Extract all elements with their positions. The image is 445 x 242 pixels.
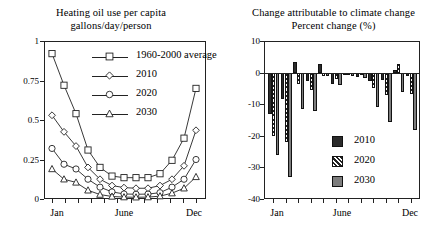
left-xtick-label-june: June	[115, 207, 133, 218]
legend-item-1960-2000-average: 1960-2000 average	[92, 48, 204, 67]
circle-marker-icon	[49, 145, 55, 151]
bar-2020-Mar	[297, 73, 300, 84]
circle-marker-icon	[193, 156, 199, 162]
legend-item-2020: 2020	[92, 86, 204, 105]
right-xtick-label-dec: Dec	[402, 207, 418, 218]
circle-marker-icon	[73, 166, 79, 172]
circle-marker-icon	[181, 176, 187, 182]
right-xtick-label-june: June	[333, 207, 351, 218]
left-xtick-mark	[78, 199, 79, 203]
square-marker-icon	[61, 82, 67, 88]
square-marker-icon	[49, 51, 55, 57]
legend-label: 2020	[354, 154, 375, 165]
bar-2010-Jan	[268, 73, 271, 114]
left-xtick-mark	[65, 199, 66, 203]
bar-2030-Jan	[276, 73, 279, 155]
square-marker-icon	[109, 173, 115, 179]
triangle-marker-icon	[105, 109, 114, 118]
left-chart-panel: Heating oil use per capita gallons/day/p…	[0, 0, 222, 242]
right-xtick-mark	[298, 199, 299, 203]
left-xtick-label-jan: Jan	[50, 207, 63, 218]
right-ytick-label-neg20: -20	[234, 131, 260, 141]
square-marker-icon	[105, 52, 114, 61]
bar-2030-Oct	[388, 73, 391, 122]
bar-2020-Sep	[372, 73, 375, 89]
bar-2010-June	[331, 73, 334, 84]
legend-label: 1960-2000 average	[136, 49, 217, 60]
legend-label: 2020	[136, 87, 157, 98]
left-xtick-mark	[52, 199, 53, 203]
bar-2020-Feb	[285, 73, 288, 143]
legend-item-2010: 2010	[92, 67, 204, 86]
right-ytick-label-neg10: -10	[234, 99, 260, 109]
bar-2010-Oct	[381, 73, 384, 80]
right-xtick-mark	[323, 199, 324, 203]
bar-2010-Feb	[281, 73, 284, 100]
triangle-marker-icon	[49, 165, 56, 171]
right-ytick-label-10: 10	[234, 36, 260, 46]
square-marker-icon	[157, 171, 163, 177]
left-xtick-mark	[144, 199, 145, 203]
left-xtick-mark	[104, 199, 105, 203]
diamond-marker-icon	[109, 182, 116, 189]
bar-2030-Apr	[313, 73, 316, 111]
bar-2010-Apr	[306, 73, 309, 81]
right-xtick-mark	[386, 199, 387, 203]
right-xtick-mark	[286, 199, 287, 203]
legend-label: 2010	[354, 134, 375, 145]
right-zero-line	[265, 73, 419, 74]
square-marker-icon	[133, 175, 139, 181]
right-ytick-label-0: 0	[234, 68, 260, 78]
bar-2030-Feb	[288, 73, 291, 177]
diamond-marker-icon	[49, 112, 56, 119]
left-xtick-mark	[131, 199, 132, 203]
left-xtick-mark	[91, 199, 92, 203]
bar-2030-Dec	[413, 73, 416, 131]
circle-marker-icon	[97, 184, 103, 190]
right-ytick-label-neg40: -40	[234, 194, 260, 204]
right-xtick-mark	[336, 199, 337, 203]
bar-2010-Mar	[293, 62, 296, 72]
bar-2030-Sep	[376, 73, 379, 107]
bar-2020-Apr	[310, 73, 313, 90]
bar-2010-May	[318, 64, 321, 72]
bar-2020-Oct	[385, 73, 388, 95]
right-xtick-mark	[411, 199, 412, 203]
triangle-marker-icon	[61, 176, 68, 182]
left-xtick-mark	[196, 199, 197, 203]
right-xtick-label-jan: Jan	[270, 207, 283, 218]
circle-marker-icon	[105, 90, 114, 99]
square-marker-icon	[145, 175, 151, 181]
diagonal-hatch-swatch-icon	[332, 156, 343, 167]
square-marker-icon	[97, 164, 103, 170]
legend-label: 2030	[136, 106, 157, 117]
legend-label: 2010	[136, 68, 157, 79]
legend-label: 2030	[354, 174, 375, 185]
right-chart-title-line1: Change attributable to climate change	[222, 6, 445, 19]
diamond-marker-icon	[133, 185, 140, 192]
circle-marker-icon	[61, 161, 67, 167]
right-xtick-mark	[311, 199, 312, 203]
triangle-marker-icon	[193, 173, 200, 179]
diamond-marker-icon	[157, 182, 164, 189]
bar-2030-Nov	[401, 73, 404, 92]
square-marker-icon	[181, 135, 187, 141]
right-xtick-mark	[361, 199, 362, 203]
bar-2020-Nov	[397, 64, 400, 72]
bar-2030-June	[338, 73, 341, 86]
left-xtick-mark	[157, 199, 158, 203]
right-chart-title-line2: Percent change (%)	[222, 19, 445, 32]
bar-2030-Mar	[301, 73, 304, 109]
diamond-marker-icon	[105, 71, 114, 80]
square-marker-icon	[85, 147, 91, 153]
bar-2010-Sep	[368, 73, 371, 81]
figure-page: Heating oil use per capita gallons/day/p…	[0, 0, 445, 242]
diamond-marker-icon	[193, 127, 200, 134]
right-xtick-mark	[348, 199, 349, 203]
legend-item-2030: 2030	[92, 105, 204, 124]
left-xtick-mark	[183, 199, 184, 203]
right-ytick-label-neg30: -30	[234, 162, 260, 172]
solid-black-swatch-icon	[332, 136, 343, 147]
square-marker-icon	[121, 175, 127, 181]
bar-2020-Dec	[410, 73, 413, 94]
